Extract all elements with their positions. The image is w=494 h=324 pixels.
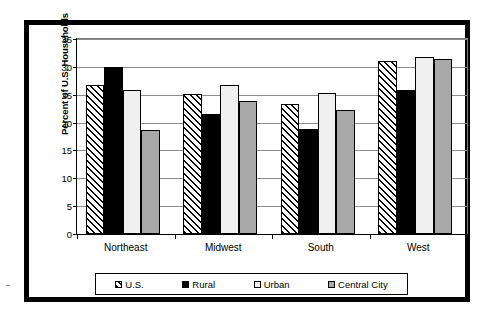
x-tick-mark [175, 234, 176, 239]
y-tick-label: 25 [61, 89, 72, 100]
y-tick-mark [73, 178, 77, 179]
bar-rural-west [397, 90, 416, 234]
bar-u-s-west [378, 61, 397, 234]
legend-label: Rural [192, 279, 215, 290]
legend-label: U.S. [125, 279, 143, 290]
bar-central-city-midwest [239, 101, 258, 234]
bar-central-city-south [336, 110, 355, 234]
bar-urban-south [318, 93, 337, 234]
legend-entry-urban[interactable]: Urban [254, 279, 290, 290]
legend-label: Urban [264, 279, 290, 290]
y-tick-label: 35 [61, 34, 72, 45]
bar-central-city-northeast [141, 130, 160, 234]
x-category-label-midwest: Midwest [205, 242, 242, 253]
y-tick-mark [73, 150, 77, 151]
chart-frame-border: Percent of U.S. Households 0510152025303… [24, 20, 470, 302]
bar-u-s-south [281, 104, 300, 234]
y-tick-mark [73, 39, 77, 40]
figure-canvas: Percent of U.S. Households 0510152025303… [0, 0, 494, 324]
x-category-label-northeast: Northeast [104, 242, 147, 253]
plot-area: 05101520253035 NortheastMidwestSouthWest [76, 38, 468, 235]
x-tick-mark [77, 234, 78, 239]
bar-rural-northeast [104, 67, 123, 234]
y-tick-label: 20 [61, 117, 72, 128]
legend-entry-central-city[interactable]: Central City [328, 279, 388, 290]
x-tick-mark [467, 234, 468, 239]
legend-swatch-icon [115, 281, 122, 288]
y-tick-label: 30 [61, 61, 72, 72]
bar-urban-west [415, 57, 434, 234]
legend-entry-rural[interactable]: Rural [182, 279, 215, 290]
legend-swatch-icon [254, 281, 261, 288]
y-tick-mark [73, 95, 77, 96]
scan-artifact [6, 285, 10, 286]
bar-urban-midwest [220, 85, 239, 234]
x-category-label-south: South [308, 242, 334, 253]
bar-u-s-midwest [183, 94, 202, 234]
y-tick-mark [73, 206, 77, 207]
bar-rural-midwest [202, 114, 221, 234]
y-tick-label: 5 [67, 201, 72, 212]
legend-entry-u-s[interactable]: U.S. [115, 279, 143, 290]
y-axis-title: Percent of U.S. Households [59, 0, 73, 159]
bar-u-s-northeast [86, 85, 105, 234]
gridline [77, 39, 467, 40]
bar-urban-northeast [123, 90, 142, 234]
legend-swatch-icon [182, 281, 189, 288]
x-tick-mark [272, 234, 273, 239]
y-tick-label: 15 [61, 145, 72, 156]
legend-label: Central City [338, 279, 388, 290]
y-tick-label: 0 [67, 229, 72, 240]
y-tick-label: 10 [61, 173, 72, 184]
y-tick-mark [73, 67, 77, 68]
bar-central-city-west [434, 59, 453, 235]
y-tick-mark [73, 123, 77, 124]
legend-swatch-icon [328, 281, 335, 288]
bar-rural-south [299, 129, 318, 234]
gridline [77, 67, 467, 68]
x-tick-mark [370, 234, 371, 239]
x-category-label-west: West [407, 242, 430, 253]
chart-legend: U.S.RuralUrbanCentral City [95, 273, 408, 295]
